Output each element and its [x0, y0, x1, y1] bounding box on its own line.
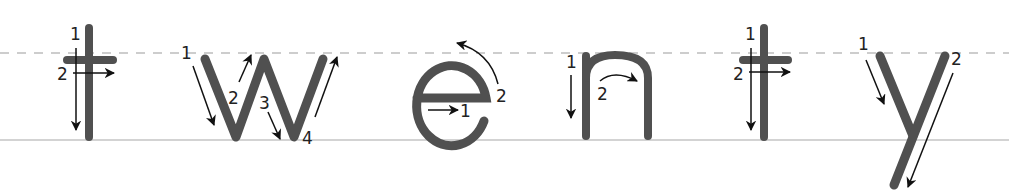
step-label: 2 — [951, 49, 962, 69]
step-label: 2 — [228, 88, 239, 108]
letter-y: 1 2 — [858, 34, 962, 187]
step-label: 1 — [566, 52, 577, 72]
step-label: 1 — [460, 101, 471, 121]
arrow-step-2 — [600, 75, 637, 81]
step-label: 1 — [181, 43, 192, 63]
letter-w: 1 2 3 4 — [181, 43, 337, 148]
step-label: 1 — [858, 34, 869, 54]
step-label: 1 — [70, 24, 81, 44]
arrow-step-2 — [239, 55, 251, 82]
step-label: 2 — [733, 64, 744, 84]
step-label: 2 — [597, 84, 608, 104]
step-label: 2 — [57, 64, 68, 84]
handwriting-worksheet: 1 2 1 2 3 4 1 2 1 2 1 2 — [0, 0, 1009, 195]
letter-e: 1 2 — [417, 43, 507, 146]
arrow-step-3 — [268, 112, 280, 139]
step-label: 2 — [496, 86, 507, 106]
letter-n: 1 2 — [566, 52, 648, 136]
step-label: 3 — [259, 93, 270, 113]
letter-t-1: 1 2 — [57, 24, 114, 137]
step-label: 1 — [745, 24, 756, 44]
step-label: 4 — [302, 128, 313, 148]
letter-t-2: 1 2 — [733, 24, 790, 137]
